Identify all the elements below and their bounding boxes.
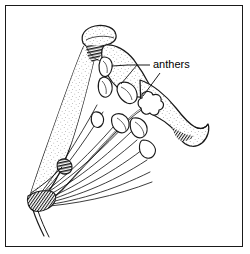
style — [33, 210, 49, 237]
flower-diagram: anthers — [0, 0, 250, 254]
figure-root: anthers — [0, 0, 250, 254]
annotation-label-anthers: anthers — [153, 58, 190, 70]
